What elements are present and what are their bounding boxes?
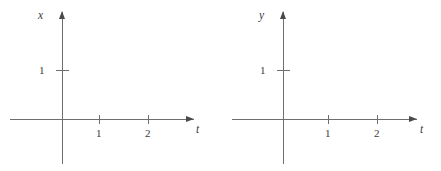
x-tick-label-2-left: 2 (145, 128, 151, 139)
horizontal-axis-line-right (232, 119, 417, 120)
vertical-axis-line-left (62, 12, 63, 164)
y-tick-label-1-right: 1 (260, 65, 266, 76)
x-tick-mark-1-right (328, 115, 329, 124)
axes-panel-left: x t 1 1 2 (0, 0, 220, 171)
vertical-axis-label-left: x (38, 10, 43, 21)
vertical-axis-line-right (283, 12, 284, 164)
x-tick-mark-2-left (148, 115, 149, 124)
horizontal-axis-label-right: t (420, 124, 423, 135)
figure-canvas: x t 1 1 2 y t 1 1 2 (0, 0, 441, 171)
horizontal-axis-line-left (10, 119, 194, 120)
vertical-axis-label-right: y (259, 10, 264, 21)
vertical-axis-arrowhead-right (280, 11, 286, 19)
y-tick-mark-1-left (56, 70, 69, 71)
x-tick-mark-1-left (99, 115, 100, 124)
axes-panel-right: y t 1 1 2 (220, 0, 441, 171)
x-tick-label-2-right: 2 (374, 128, 380, 139)
y-tick-mark-1-right (277, 70, 290, 71)
x-tick-label-1-left: 1 (96, 128, 102, 139)
horizontal-axis-arrowhead-left (186, 116, 194, 122)
x-tick-mark-2-right (377, 115, 378, 124)
y-tick-label-1-left: 1 (39, 65, 45, 76)
horizontal-axis-label-left: t (196, 124, 199, 135)
x-tick-label-1-right: 1 (325, 128, 331, 139)
horizontal-axis-arrowhead-right (409, 116, 417, 122)
vertical-axis-arrowhead-left (59, 11, 65, 19)
